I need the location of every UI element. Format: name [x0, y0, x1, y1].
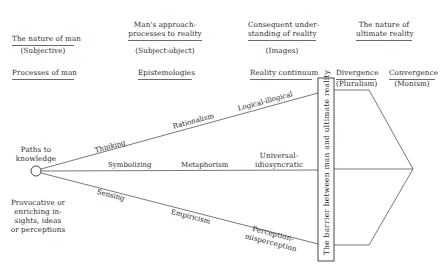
row-epistemologies: Epistemologies [138, 68, 192, 80]
header-approach-processes: Man's approach- processes to reality [128, 20, 202, 41]
symbolizing-label: Symbolizing [108, 161, 151, 169]
sub-images: (Images) [248, 46, 316, 55]
header-text-line1: Man's approach- [128, 20, 202, 29]
divergence-convergence-shape [334, 90, 413, 245]
header-text: The nature of man [12, 34, 81, 43]
header-text-line2: processes to reality [128, 29, 202, 38]
note-line1: Provocative or [8, 198, 68, 207]
header-nature-of-man: The nature of man [12, 34, 74, 46]
symbolizing-path-line [41, 170, 318, 171]
origin-node [31, 166, 41, 176]
note-line3: sights, ideas [8, 216, 68, 225]
row-reality-continuum: Reality continuum [250, 68, 312, 80]
header-consequent-understanding: Consequent under- standing of reality [248, 20, 316, 41]
metaphorism-label: Metaphorism [181, 161, 228, 169]
label-line1: Universal- [255, 151, 303, 160]
header-text-line1: The nature of [356, 20, 412, 29]
monism-label: (Monism) [389, 79, 435, 88]
universal-idiosyncratic-label: Universal- idiosyncratic [255, 151, 303, 169]
label-line2: idiosyncratic [255, 160, 303, 169]
label-line1: Paths to [12, 145, 60, 154]
header-text-line2: standing of reality [248, 29, 316, 38]
label-line2: knowledge [12, 154, 60, 163]
sub-subjective: (Subjective) [12, 46, 74, 55]
header-nature-of-ultimate-reality: The nature of ultimate reality [356, 20, 412, 41]
header-text-line2: ultimate reality [356, 29, 412, 38]
pluralism-label: (Pluralism) [336, 79, 376, 88]
sub-subject-object: (Subject-object) [128, 46, 202, 55]
note-line4: or perceptions [8, 225, 68, 234]
provocative-note: Provocative or enriching in- sights, ide… [8, 198, 68, 234]
row-processes-of-man: Processes of man [12, 68, 74, 80]
note-line2: enriching in- [8, 207, 68, 216]
paths-to-knowledge-label: Paths to knowledge [12, 145, 60, 163]
header-text-line1: Consequent under- [248, 20, 316, 29]
barrier-label: The barrier between man and ultimate rea… [322, 70, 331, 255]
